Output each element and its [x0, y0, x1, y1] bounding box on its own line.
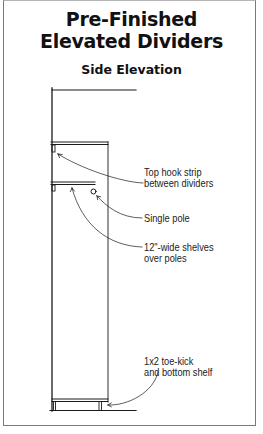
callout-text: over poles	[144, 253, 214, 264]
single-pole-circle	[91, 189, 96, 194]
leader-pole	[97, 196, 142, 218]
side-elevation-drawing	[0, 0, 263, 434]
callout-toe-kick: 1x2 toe-kick and bottom shelf	[144, 356, 212, 378]
callout-top-hook-strip: Top hook strip between dividers	[144, 167, 213, 189]
callout-text: and bottom shelf	[144, 367, 212, 378]
callout-shelves: 12"-wide shelves over poles	[144, 242, 214, 264]
leader-shelves	[72, 188, 142, 247]
leader-top-hook	[58, 154, 143, 183]
callout-single-pole: Single pole	[144, 213, 190, 224]
callout-text: Single pole	[144, 213, 190, 224]
callout-text: between dividers	[144, 178, 213, 189]
